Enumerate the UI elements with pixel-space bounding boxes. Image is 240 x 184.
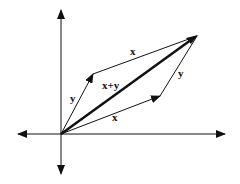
diagram-svg	[0, 0, 240, 184]
vector-addition-diagram: x y x+y y x	[0, 0, 240, 184]
label-y-right: y	[178, 68, 184, 79]
label-sum: x+y	[102, 80, 119, 91]
label-x-bottom: x	[112, 112, 118, 123]
vector-y	[61, 74, 93, 134]
vector-y-translated	[160, 36, 197, 96]
label-x-top: x	[130, 46, 136, 57]
label-y-left: y	[70, 93, 76, 104]
vector-sum	[61, 37, 195, 134]
